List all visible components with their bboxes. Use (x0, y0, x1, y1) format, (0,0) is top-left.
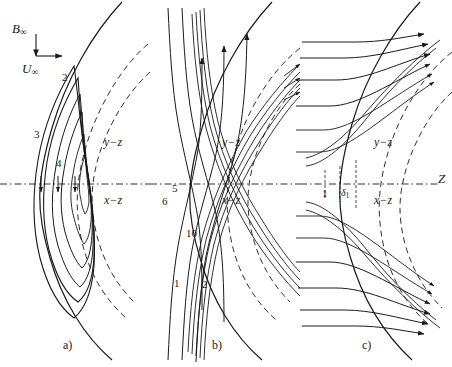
panel-b-number-2: 2 (202, 279, 208, 290)
z-axis-label: Z (438, 172, 445, 185)
panel-c-number-1: 1 (322, 188, 328, 199)
panel-b-number-10: 10 (186, 228, 197, 239)
panel-a-contour-4 (61, 112, 92, 268)
panel-a-dashed-arc-2 (92, 72, 150, 302)
panel-c-streamline-l2 (300, 310, 428, 324)
panel-c-streamline-l1 (302, 326, 424, 334)
figure-canvas: B∞ U∞ Z 2 3 4 y−z x−z a) 5 6 10 1 2 y−z … (0, 0, 452, 367)
panel-b-caption: b) (212, 339, 222, 351)
panel-a-graphics (0, 2, 150, 360)
panel-a-plane-upper: y−z (104, 136, 122, 148)
panel-c-graphics (296, 2, 452, 360)
panel-a-caption: a) (63, 339, 72, 351)
panel-b-number-1: 1 (174, 278, 180, 289)
panel-c-streamline-u1 (302, 34, 424, 42)
panel-b-plane-lower: x−z (222, 194, 240, 206)
panel-c-hug-u1 (306, 48, 436, 166)
panel-c-plane-lower: x−z (374, 194, 392, 206)
u-infinity-label: U∞ (22, 62, 38, 77)
panel-a-number-4: 4 (56, 158, 62, 169)
panel-b-number-6: 6 (162, 196, 168, 207)
panel-c-caption: c) (362, 339, 371, 351)
panel-b-plane-upper: y−z (222, 136, 240, 148)
panel-a-plane-lower: x−z (104, 194, 122, 206)
panel-c-hug-l1 (306, 202, 436, 320)
figure-vector-layer (0, 0, 452, 367)
panel-c-streamline-u2 (300, 44, 428, 58)
panel-c-dashed-arc-2 (400, 92, 452, 308)
panel-c-streamline-l6 (296, 216, 434, 286)
panel-c-delta-1-label: δ1 (341, 188, 349, 200)
panel-a-number-3: 3 (34, 129, 40, 140)
panel-b-number-5: 5 (172, 183, 178, 194)
panel-c-plane-upper: y−z (374, 136, 392, 148)
panel-a-number-2: 2 (62, 72, 68, 83)
b-infinity-label: B∞ (12, 22, 27, 37)
panel-c-streamline-u6 (296, 82, 434, 152)
panel-a-contour-6 (79, 155, 89, 214)
panel-b-bundle-u4 (192, 72, 300, 354)
